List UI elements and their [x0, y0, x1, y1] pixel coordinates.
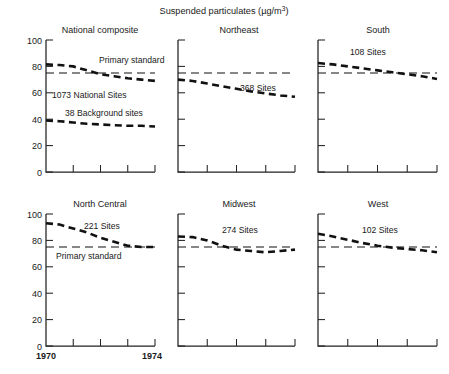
y-tick-label-80-b: 80: [32, 236, 42, 246]
panel-title-national: National composite: [62, 25, 139, 35]
y-tick-label-60: 60: [32, 88, 42, 98]
y-tick-label-100: 100: [27, 36, 42, 46]
y-tick-label-80: 80: [32, 62, 42, 72]
panel-title-midwest: Midwest: [222, 199, 256, 209]
x-axis-label-1970: 1970: [36, 351, 56, 361]
y-tick-label-40: 40: [32, 115, 42, 125]
annotation-south-sites: 108 Sites: [350, 47, 386, 57]
annotation-midwest-sites: 274 Sites: [222, 225, 258, 235]
figure-title-tail: ): [285, 6, 288, 16]
panel-title-north-central: North Central: [73, 199, 127, 209]
figure-title-main: Suspended particulates (µg/m: [160, 6, 283, 16]
panel-title-west: West: [368, 199, 389, 209]
annotation-background-sites: 38 Background sites: [65, 108, 143, 118]
annotation-primary-standard-2: Primary standard: [56, 251, 122, 261]
y-tick-label-0-b: 0: [37, 342, 42, 352]
annotation-northeast-sites: 368 Sites: [240, 83, 276, 93]
suspended-particulates-small-multiples: Suspended particulates (µg/m3) National …: [0, 0, 449, 374]
y-tick-label-20: 20: [32, 141, 42, 151]
y-tick-label-60-b: 60: [32, 262, 42, 272]
panel-title-south: South: [366, 25, 390, 35]
y-tick-label-20-b: 20: [32, 315, 42, 325]
figure-root: Suspended particulates (µg/m3) National …: [0, 0, 449, 374]
figure-title: Suspended particulates (µg/m3): [160, 5, 289, 16]
annotation-north-central-sites: 221 Sites: [84, 221, 120, 231]
annotation-primary-standard: Primary standard: [99, 55, 165, 65]
y-tick-label-100-b: 100: [27, 210, 42, 220]
y-tick-label-40-b: 40: [32, 289, 42, 299]
annotation-west-sites: 102 Sites: [362, 225, 398, 235]
panel-title-northeast: Northeast: [219, 25, 259, 35]
annotation-national-sites: 1073 National Sites: [52, 90, 127, 100]
figure-title-text: Suspended particulates (µg/m3): [160, 5, 289, 16]
x-axis-label-1974: 1974: [142, 351, 162, 361]
y-tick-label-0: 0: [37, 168, 42, 178]
